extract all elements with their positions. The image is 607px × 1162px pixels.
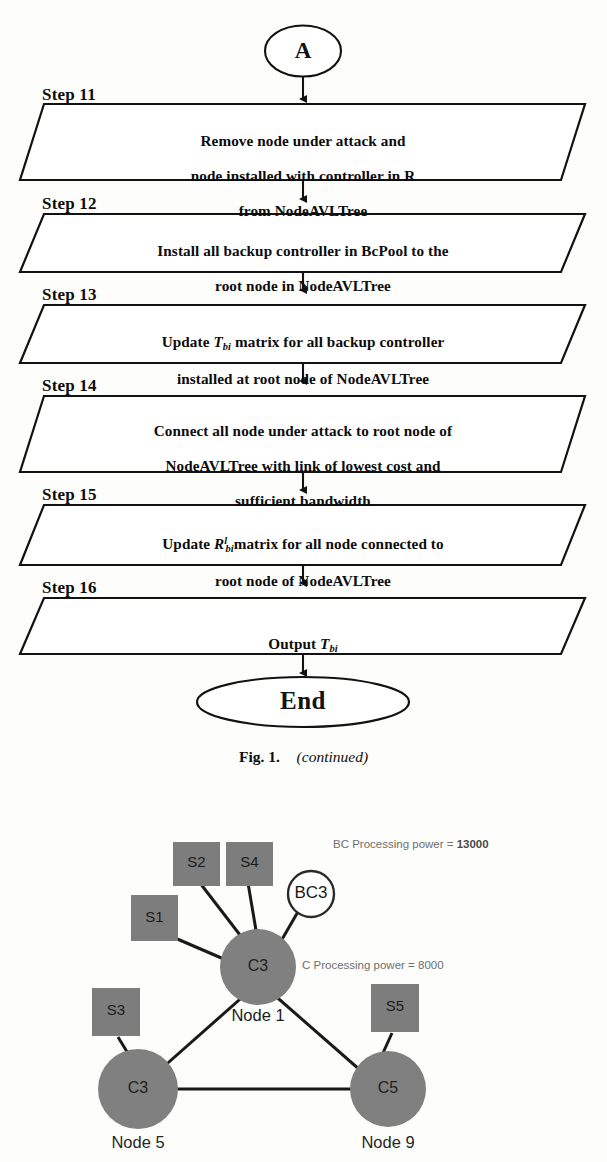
step-label-11: Step 11	[42, 85, 96, 105]
node-1-inner-label: C3	[228, 957, 288, 975]
step-13-prefix: Update	[162, 333, 214, 350]
step-11-text: Remove node under attack and node instal…	[60, 114, 546, 237]
step-13-text: Update Tbi matrix for all backup control…	[60, 315, 546, 405]
c-processing-power-annotation: C Processing power = 8000	[302, 959, 444, 971]
step-11-line-3: from NodeAVLTree	[60, 202, 546, 220]
step-13-line-2: installed at root node of NodeAVLTree	[60, 370, 546, 388]
math-subscript: bi	[329, 643, 337, 654]
math-base: R	[214, 535, 224, 552]
network-svg	[0, 790, 607, 1162]
node-9-caption: Node 9	[333, 1133, 443, 1152]
step-16-math-symbol: Tbi	[320, 635, 338, 652]
step-15-line-1: Update Rlbimatrix for all node connected…	[60, 535, 546, 555]
figure-caption: Fig. 1. (continued)	[0, 748, 607, 766]
step-16-line-1: Output Tbi	[60, 635, 546, 655]
bc-processing-power-prefix: BC Processing power =	[333, 838, 457, 850]
figure-caption-label: Fig. 1.	[239, 748, 280, 765]
node-5-inner-label: C3	[108, 1079, 168, 1097]
node-9-inner-label: C5	[358, 1079, 418, 1097]
step-15-line-2: root node of NodeAVLTree	[60, 572, 546, 590]
math-subscript: bi	[225, 543, 233, 554]
step-15-math-symbol: Rlbi	[214, 535, 234, 552]
connector-a-label: A	[273, 38, 333, 64]
node-1-caption: Node 1	[203, 1006, 313, 1025]
server-s5-label: S5	[371, 997, 419, 1014]
step-16-prefix: Output	[268, 635, 320, 652]
step-12-text: Install all backup controller in BcPool …	[60, 224, 546, 312]
node-5-caption: Node 5	[83, 1133, 193, 1152]
step-15-text: Update Rlbimatrix for all node connected…	[60, 517, 546, 608]
network-topology-figure: S2 S4 S1 S3 S5 BC3 C3 C3 C5 Node 1 Node …	[0, 790, 607, 1162]
step-16-text: Output Tbi	[60, 617, 546, 672]
step-12-line-2: root node in NodeAVLTree	[60, 277, 546, 295]
step-11-line-2: node installed with controller in R	[60, 167, 546, 185]
server-s1-label: S1	[131, 908, 178, 925]
server-s2-label: S2	[173, 853, 220, 870]
step-13-line-1: Update Tbi matrix for all backup control…	[60, 333, 546, 353]
step-15-prefix: Update	[162, 535, 214, 552]
step-13-suffix: matrix for all backup controller	[231, 333, 444, 350]
bc-processing-power-annotation: BC Processing power = 13000	[333, 838, 489, 850]
server-s4-label: S4	[226, 853, 273, 870]
step-14-line-3: sufficient bandwidth	[60, 492, 546, 510]
step-13-math-symbol: Tbi	[213, 333, 231, 350]
step-14-line-2: NodeAVLTree with link of lowest cost and	[60, 457, 546, 475]
step-14-line-1: Connect all node under attack to root no…	[60, 422, 546, 440]
server-s3-label: S3	[92, 1001, 140, 1018]
bc-processing-power-value: 13000	[457, 838, 489, 850]
figure-caption-note: (continued)	[297, 748, 368, 765]
step-14-text: Connect all node under attack to root no…	[60, 404, 546, 527]
math-base: T	[213, 333, 222, 350]
math-subscript: bi	[223, 341, 231, 352]
step-12-line-1: Install all backup controller in BcPool …	[60, 242, 546, 260]
step-15-suffix: matrix for all node connected to	[234, 535, 444, 552]
terminator-end-label: End	[228, 687, 378, 715]
backup-controller-bc3-label: BC3	[283, 883, 339, 903]
step-11-line-1: Remove node under attack and	[60, 132, 546, 150]
flowchart-figure: A Step 11 Step 12 Step 13 Step 14 Step 1…	[0, 0, 607, 735]
